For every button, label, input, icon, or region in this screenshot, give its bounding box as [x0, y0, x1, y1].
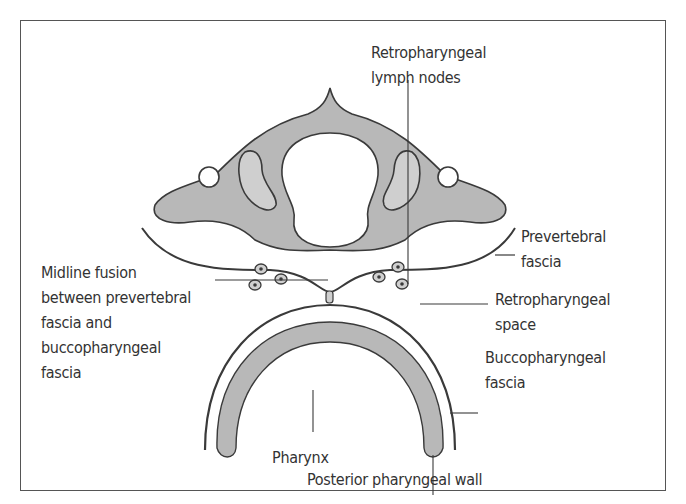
label-posterior-pharyngeal-wall: Posterior pharyngeal wall — [307, 467, 482, 492]
posterior-pharyngeal-wall-band — [217, 322, 443, 457]
spinal-canal — [282, 133, 378, 247]
label-retropharyngeal-space: Retropharyngeal space — [495, 287, 610, 337]
label-midline-fusion: Midline fusion between prevertebral fasc… — [41, 260, 191, 385]
label-prevertebral-fascia: Prevertebral fascia — [521, 224, 606, 274]
right-foramen — [438, 167, 458, 187]
label-retropharyngeal-lymph-nodes: Retropharyngeal lymph nodes — [371, 40, 486, 90]
label-buccopharyngeal-fascia: Buccopharyngeal fascia — [485, 345, 606, 395]
vertebra — [154, 88, 506, 251]
lymph-nodes — [249, 262, 408, 290]
left-foramen — [199, 167, 219, 187]
